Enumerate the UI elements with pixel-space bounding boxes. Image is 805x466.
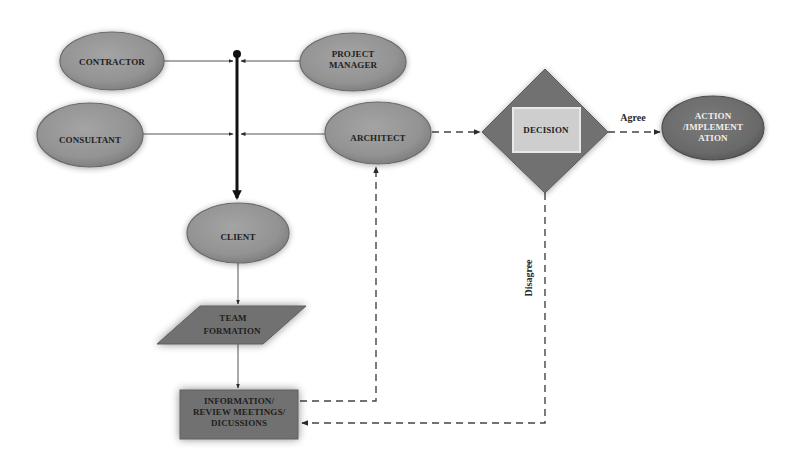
edge-information-to-architect <box>300 167 376 401</box>
node-label: CLIENT <box>220 232 255 242</box>
node-team-formation: TEAM FORMATION <box>157 306 306 344</box>
node-decision: DECISION <box>482 69 608 193</box>
node-label: CONSULTANT <box>59 135 121 145</box>
agree-label: Agree <box>620 112 646 123</box>
node-label: DECISION <box>523 125 569 135</box>
flowchart-canvas: Agree Disagree CONTRACTOR PROJECT MANAGE… <box>0 0 805 466</box>
node-label: ATION <box>698 133 728 143</box>
node-label: TEAM <box>219 313 247 323</box>
node-project-manager: PROJECT MANAGER <box>300 33 406 91</box>
node-label: PROJECT <box>332 49 375 59</box>
node-label: DICUSSIONS <box>211 418 267 428</box>
node-information-review-meetings: INFORMATION/ REVIEW MEETINGS/ DICUSSIONS <box>180 390 298 439</box>
node-client: CLIENT <box>187 203 289 263</box>
node-action-implementation: ACTION /IMPLEMENT ATION <box>662 96 764 160</box>
vertical-bus-connector <box>233 50 241 198</box>
node-label: MANAGER <box>329 60 378 70</box>
edge-decision-to-action: Agree <box>608 112 660 132</box>
node-label: FORMATION <box>203 326 261 336</box>
node-contractor: CONTRACTOR <box>60 32 164 90</box>
disagree-label: Disagree <box>523 259 534 297</box>
node-label: ARCHITECT <box>350 133 405 143</box>
node-consultant: CONSULTANT <box>37 103 143 167</box>
node-label: REVIEW MEETINGS/ <box>193 407 286 417</box>
node-label: ACTION <box>695 111 732 121</box>
node-architect: ARCHITECT <box>325 102 431 164</box>
edge-decision-to-information: Disagree <box>302 193 545 423</box>
node-label: /IMPLEMENT <box>682 122 743 132</box>
node-label: CONTRACTOR <box>79 57 145 67</box>
node-label: INFORMATION/ <box>204 396 274 406</box>
